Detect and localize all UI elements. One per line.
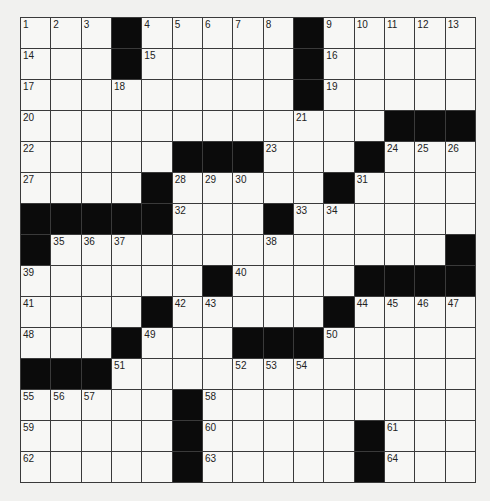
grid-cell[interactable]: [82, 173, 111, 203]
grid-cell[interactable]: [112, 142, 141, 172]
grid-cell[interactable]: [415, 173, 444, 203]
grid-cell[interactable]: [82, 452, 111, 482]
grid-cell[interactable]: [203, 235, 232, 265]
grid-cell[interactable]: [324, 266, 353, 296]
grid-cell[interactable]: [233, 452, 262, 482]
grid-cell[interactable]: [294, 297, 323, 327]
grid-cell[interactable]: 19: [324, 80, 353, 110]
grid-cell[interactable]: 51: [112, 359, 141, 389]
grid-cell[interactable]: [51, 142, 80, 172]
grid-cell[interactable]: [203, 111, 232, 141]
grid-cell[interactable]: [173, 111, 202, 141]
grid-cell[interactable]: [51, 173, 80, 203]
grid-cell[interactable]: 1: [21, 18, 50, 48]
grid-cell[interactable]: [355, 80, 384, 110]
grid-cell[interactable]: [82, 328, 111, 358]
grid-cell[interactable]: [173, 80, 202, 110]
grid-cell[interactable]: [142, 266, 171, 296]
grid-cell[interactable]: [203, 328, 232, 358]
grid-cell[interactable]: 9: [324, 18, 353, 48]
grid-cell[interactable]: [415, 359, 444, 389]
grid-cell[interactable]: 57: [82, 390, 111, 420]
grid-cell[interactable]: [294, 173, 323, 203]
grid-cell[interactable]: [264, 173, 293, 203]
grid-cell[interactable]: 61: [385, 421, 414, 451]
grid-cell[interactable]: [446, 390, 475, 420]
grid-cell[interactable]: [324, 235, 353, 265]
grid-cell[interactable]: [203, 80, 232, 110]
grid-cell[interactable]: [385, 235, 414, 265]
grid-cell[interactable]: 26: [446, 142, 475, 172]
grid-cell[interactable]: 50: [324, 328, 353, 358]
grid-cell[interactable]: 58: [203, 390, 232, 420]
grid-cell[interactable]: [294, 452, 323, 482]
grid-cell[interactable]: [415, 452, 444, 482]
grid-cell[interactable]: 20: [21, 111, 50, 141]
grid-cell[interactable]: [173, 328, 202, 358]
grid-cell[interactable]: [173, 266, 202, 296]
grid-cell[interactable]: [264, 49, 293, 79]
grid-cell[interactable]: 54: [294, 359, 323, 389]
grid-cell[interactable]: 45: [385, 297, 414, 327]
grid-cell[interactable]: [264, 111, 293, 141]
grid-cell[interactable]: [355, 235, 384, 265]
grid-cell[interactable]: 32: [173, 204, 202, 234]
grid-cell[interactable]: [415, 49, 444, 79]
grid-cell[interactable]: [233, 111, 262, 141]
grid-cell[interactable]: 52: [233, 359, 262, 389]
grid-cell[interactable]: [82, 49, 111, 79]
grid-cell[interactable]: [294, 266, 323, 296]
grid-cell[interactable]: 41: [21, 297, 50, 327]
grid-cell[interactable]: 8: [264, 18, 293, 48]
grid-cell[interactable]: [415, 328, 444, 358]
grid-cell[interactable]: 55: [21, 390, 50, 420]
grid-cell[interactable]: 31: [355, 173, 384, 203]
grid-cell[interactable]: [264, 80, 293, 110]
grid-cell[interactable]: [264, 297, 293, 327]
grid-cell[interactable]: [264, 421, 293, 451]
grid-cell[interactable]: 40: [233, 266, 262, 296]
grid-cell[interactable]: [233, 204, 262, 234]
grid-cell[interactable]: [142, 142, 171, 172]
grid-cell[interactable]: [233, 297, 262, 327]
grid-cell[interactable]: 64: [385, 452, 414, 482]
grid-cell[interactable]: 18: [112, 80, 141, 110]
grid-cell[interactable]: [324, 142, 353, 172]
grid-cell[interactable]: 14: [21, 49, 50, 79]
grid-cell[interactable]: [355, 328, 384, 358]
grid-cell[interactable]: [294, 421, 323, 451]
grid-cell[interactable]: 23: [264, 142, 293, 172]
grid-cell[interactable]: 53: [264, 359, 293, 389]
grid-cell[interactable]: [446, 328, 475, 358]
grid-cell[interactable]: [51, 111, 80, 141]
grid-cell[interactable]: 21: [294, 111, 323, 141]
grid-cell[interactable]: [385, 204, 414, 234]
grid-cell[interactable]: 63: [203, 452, 232, 482]
grid-cell[interactable]: [203, 359, 232, 389]
grid-cell[interactable]: 10: [355, 18, 384, 48]
grid-cell[interactable]: 27: [21, 173, 50, 203]
grid-cell[interactable]: [355, 49, 384, 79]
grid-cell[interactable]: 47: [446, 297, 475, 327]
grid-cell[interactable]: 59: [21, 421, 50, 451]
grid-cell[interactable]: [415, 235, 444, 265]
grid-cell[interactable]: [142, 235, 171, 265]
grid-cell[interactable]: 35: [51, 235, 80, 265]
grid-cell[interactable]: [173, 49, 202, 79]
grid-cell[interactable]: 44: [355, 297, 384, 327]
grid-cell[interactable]: 28: [173, 173, 202, 203]
grid-cell[interactable]: 2: [51, 18, 80, 48]
grid-cell[interactable]: [142, 80, 171, 110]
grid-cell[interactable]: [112, 390, 141, 420]
grid-cell[interactable]: [446, 49, 475, 79]
grid-cell[interactable]: [173, 235, 202, 265]
grid-cell[interactable]: 46: [415, 297, 444, 327]
grid-cell[interactable]: [385, 173, 414, 203]
grid-cell[interactable]: 49: [142, 328, 171, 358]
grid-cell[interactable]: 62: [21, 452, 50, 482]
grid-cell[interactable]: [112, 111, 141, 141]
grid-cell[interactable]: [324, 421, 353, 451]
grid-cell[interactable]: 22: [21, 142, 50, 172]
grid-cell[interactable]: [82, 297, 111, 327]
grid-cell[interactable]: 33: [294, 204, 323, 234]
